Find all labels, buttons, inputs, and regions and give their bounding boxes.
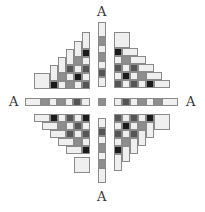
grid-cell [98, 168, 106, 183]
grid-cell [66, 81, 74, 89]
grid-cell [98, 136, 106, 144]
grid-cell [34, 73, 50, 89]
grid-cell [50, 114, 58, 122]
grid-cell [25, 98, 41, 106]
axis-label-bottom: A [97, 190, 106, 203]
grid-cell [114, 138, 122, 146]
grid-cell [74, 73, 82, 81]
grid-cell [58, 114, 66, 122]
grid-cell [58, 138, 74, 146]
grid-cell [98, 61, 106, 69]
grid-cell [130, 114, 138, 122]
grid-cell [98, 160, 106, 168]
grid-cell [74, 41, 82, 57]
grid-cell [82, 81, 90, 89]
grid-cell [49, 98, 57, 106]
grid-cell [122, 114, 130, 122]
grid-cell [122, 64, 130, 72]
grid-cell [58, 57, 66, 73]
grid-cell [114, 146, 122, 154]
grid-cell [138, 64, 154, 72]
grid-cell [82, 146, 90, 154]
grid-cell [42, 122, 58, 130]
grid-cell [114, 32, 130, 48]
grid-cell [41, 98, 49, 106]
grid-cell [74, 157, 90, 173]
grid-cell [122, 72, 130, 80]
grid-cell [114, 98, 122, 106]
grid-cell [146, 114, 154, 122]
grid-cell [122, 146, 130, 162]
grid-cell [74, 122, 82, 130]
grid-cell [82, 65, 90, 73]
grid-cell [98, 77, 106, 87]
grid-cell [122, 130, 130, 138]
grid-cell [82, 57, 90, 65]
grid-cell [122, 56, 130, 64]
grid-cell [74, 138, 82, 146]
grid-cell [130, 122, 138, 130]
grid-cell [82, 114, 90, 122]
grid-cell [130, 56, 146, 64]
grid-cell [73, 98, 81, 106]
grid-cell [98, 118, 106, 128]
grid-cell [130, 98, 138, 106]
grid-cell [82, 73, 90, 81]
grid-cell [98, 45, 106, 53]
grid-cell [74, 81, 82, 89]
grid-cell [74, 57, 82, 65]
grid-cell [146, 72, 162, 80]
grid-cell [66, 73, 74, 81]
grid-cell [98, 69, 106, 77]
grid-cell [114, 154, 122, 171]
grid-cell [50, 65, 58, 81]
grid-cell [98, 37, 106, 45]
grid-cell [146, 98, 154, 106]
grid-cell [50, 81, 58, 89]
grid-cell [82, 138, 90, 146]
grid-cell [66, 122, 74, 130]
grid-cell [130, 138, 138, 154]
grid-cell [66, 65, 74, 73]
grid-cell [66, 114, 74, 122]
grid-cell [154, 80, 170, 88]
axis-label-right: A [186, 95, 195, 108]
grid-cell [114, 48, 122, 56]
grid-cell [66, 49, 74, 65]
grid-cell [114, 122, 122, 130]
grid-cell [98, 144, 106, 152]
grid-cell [74, 65, 82, 73]
grid-cell [57, 98, 65, 106]
grid-cell [81, 98, 90, 106]
grid-cell [146, 122, 154, 138]
grid-cell [122, 122, 130, 130]
grid-cell [58, 81, 66, 89]
grid-cell [154, 114, 170, 130]
grid-cell [74, 130, 82, 138]
axis-label-left: A [9, 95, 18, 108]
axis-label-top: A [97, 5, 106, 18]
grid-cell [154, 98, 162, 106]
grid-cell [58, 122, 66, 130]
grid-cell [138, 130, 146, 146]
grid-cell [138, 98, 146, 106]
grid-cell [130, 80, 138, 88]
grid-cell [82, 49, 90, 57]
grid-cell [114, 72, 122, 80]
grid-cell [122, 98, 130, 106]
grid-cell [130, 64, 138, 72]
grid-cell [122, 80, 130, 88]
grid-cell [98, 152, 106, 160]
grid-cell [130, 72, 138, 80]
grid-cell [138, 122, 146, 130]
grid-cell [66, 146, 82, 154]
grid-cell [98, 128, 106, 136]
grid-cell [114, 130, 122, 138]
grid-cell [114, 56, 122, 64]
grid-cell [122, 48, 138, 56]
grid-cell [114, 64, 122, 72]
grid-cell [162, 98, 178, 106]
grid-cell [58, 73, 66, 81]
grid-cell [82, 32, 90, 49]
grid-cell [66, 130, 74, 138]
